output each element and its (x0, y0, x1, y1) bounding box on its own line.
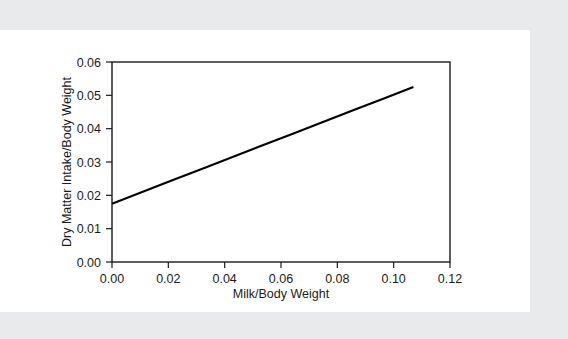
y-tick-label: 0.04 (77, 122, 101, 136)
y-tick-label: 0.05 (77, 89, 101, 103)
x-tick-label: 0.06 (269, 272, 293, 286)
y-tick-label: 0.06 (77, 56, 101, 70)
x-tick-label: 0.12 (438, 272, 462, 286)
x-tick-marks (112, 262, 450, 268)
y-tick-label: 0.00 (77, 256, 101, 270)
screenshot-page: 0.00 0.01 0.02 0.03 0.04 0.05 0.06 0.00 … (0, 0, 568, 339)
x-tick-label: 0.00 (100, 272, 124, 286)
y-tick-label: 0.01 (77, 222, 101, 236)
y-tick-label: 0.03 (77, 156, 101, 170)
data-series-line (112, 87, 413, 204)
x-tick-label: 0.02 (156, 272, 180, 286)
x-tick-label: 0.04 (212, 272, 236, 286)
line-chart: 0.00 0.01 0.02 0.03 0.04 0.05 0.06 0.00 … (0, 30, 530, 312)
x-tick-label: 0.10 (381, 272, 405, 286)
x-tick-label: 0.08 (325, 272, 349, 286)
y-tick-labels: 0.00 0.01 0.02 0.03 0.04 0.05 0.06 (77, 56, 101, 270)
y-tick-marks (106, 62, 112, 262)
y-tick-label: 0.02 (77, 189, 101, 203)
x-axis-title: Milk/Body Weight (233, 287, 330, 301)
y-axis-title: Dry Matter Intake/Body Weight (60, 76, 74, 247)
figure-panel: 0.00 0.01 0.02 0.03 0.04 0.05 0.06 0.00 … (0, 30, 530, 312)
plot-svg: 0.00 0.01 0.02 0.03 0.04 0.05 0.06 0.00 … (0, 30, 530, 312)
x-tick-labels: 0.00 0.02 0.04 0.06 0.08 0.10 0.12 (100, 272, 462, 286)
